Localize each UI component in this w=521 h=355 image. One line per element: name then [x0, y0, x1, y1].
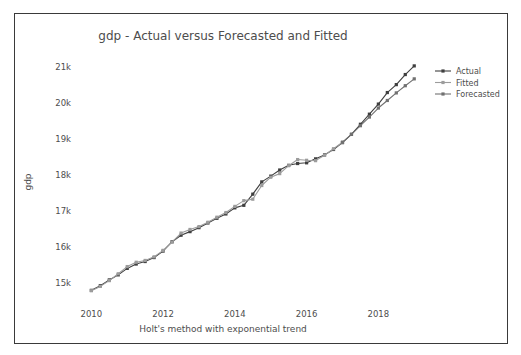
- y-tick-label: 18k: [55, 170, 71, 180]
- data-point-marker: [350, 133, 353, 136]
- y-tick-label: 17k: [55, 206, 71, 216]
- series-plot-area: [90, 64, 416, 292]
- x-axis-tick-labels: 20102012201420162018: [81, 309, 390, 319]
- series-actual: [90, 64, 416, 292]
- data-point-marker: [287, 164, 290, 167]
- data-point-marker: [206, 221, 209, 224]
- data-point-marker: [386, 91, 389, 94]
- series-line: [91, 66, 414, 290]
- y-axis-title: gdp: [23, 173, 33, 190]
- data-point-marker: [251, 193, 254, 196]
- data-point-marker: [359, 124, 362, 127]
- data-point-marker: [296, 162, 299, 165]
- legend-marker-forecasted: [441, 92, 444, 95]
- data-point-marker: [90, 289, 93, 292]
- data-point-marker: [260, 180, 263, 183]
- figure-frame: gdp - Actual versus Forecasted and Fitte…: [14, 13, 508, 344]
- series-line: [342, 79, 414, 142]
- x-tick-label: 2010: [81, 309, 103, 319]
- data-point-marker: [305, 159, 308, 162]
- chart-title: gdp - Actual versus Forecasted and Fitte…: [98, 29, 347, 43]
- data-point-marker: [278, 168, 281, 171]
- data-point-marker: [395, 91, 398, 94]
- data-point-marker: [377, 106, 380, 109]
- y-tick-label: 20k: [55, 98, 71, 108]
- data-point-marker: [135, 261, 138, 264]
- data-point-marker: [153, 255, 156, 258]
- legend-label-actual[interactable]: Actual: [456, 67, 481, 76]
- y-tick-label: 19k: [55, 134, 71, 144]
- x-tick-label: 2012: [152, 309, 174, 319]
- data-point-marker: [269, 176, 272, 179]
- chart-legend: ActualFittedForecasted: [435, 67, 500, 99]
- data-point-marker: [278, 172, 281, 175]
- data-point-marker: [242, 199, 245, 202]
- data-point-marker: [162, 249, 165, 252]
- data-point-marker: [404, 84, 407, 87]
- data-point-marker: [314, 159, 317, 162]
- x-tick-label: 2018: [368, 309, 390, 319]
- data-point-marker: [126, 265, 129, 268]
- data-point-marker: [242, 204, 245, 207]
- data-point-marker: [341, 141, 344, 144]
- y-axis-title-group: gdp: [23, 173, 33, 190]
- series-forecasted: [341, 77, 416, 144]
- x-axis-title: Holt's method with exponential trend: [139, 324, 307, 334]
- data-point-marker: [215, 216, 218, 219]
- data-point-marker: [117, 272, 120, 275]
- data-point-marker: [251, 198, 254, 201]
- gdp-line-chart: gdp - Actual versus Forecasted and Fitte…: [15, 14, 509, 345]
- x-axis-title-group: Holt's method with exponential trend: [139, 324, 307, 334]
- data-point-marker: [395, 83, 398, 86]
- data-point-marker: [386, 99, 389, 102]
- data-point-marker: [179, 231, 182, 234]
- data-point-marker: [377, 102, 380, 105]
- legend-marker-fitted: [441, 81, 444, 84]
- data-point-marker: [108, 279, 111, 282]
- data-point-marker: [144, 259, 147, 262]
- data-point-marker: [368, 115, 371, 118]
- data-point-marker: [170, 240, 173, 243]
- data-point-marker: [296, 158, 299, 161]
- data-point-marker: [99, 285, 102, 288]
- data-point-marker: [233, 205, 236, 208]
- data-point-marker: [188, 228, 191, 231]
- data-point-marker: [197, 225, 200, 228]
- data-point-marker: [224, 211, 227, 214]
- y-axis-tick-labels: 15k16k17k18k19k20k21k: [55, 62, 71, 288]
- chart-title-group: gdp - Actual versus Forecasted and Fitte…: [98, 29, 347, 43]
- y-tick-label: 15k: [55, 278, 71, 288]
- data-point-marker: [413, 64, 416, 67]
- legend-marker-actual: [441, 69, 444, 72]
- data-point-marker: [413, 77, 416, 80]
- x-tick-label: 2014: [224, 309, 246, 319]
- data-point-marker: [332, 147, 335, 150]
- data-point-marker: [323, 154, 326, 157]
- y-tick-label: 16k: [55, 242, 71, 252]
- y-tick-label: 21k: [55, 62, 71, 72]
- x-tick-label: 2016: [296, 309, 318, 319]
- legend-label-forecasted[interactable]: Forecasted: [456, 90, 500, 99]
- data-point-marker: [404, 73, 407, 76]
- data-point-marker: [260, 184, 263, 187]
- legend-label-fitted[interactable]: Fitted: [456, 79, 479, 88]
